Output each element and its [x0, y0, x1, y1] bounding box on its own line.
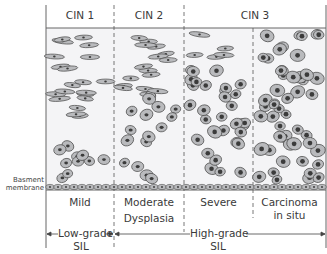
grade-moderate-line1: Moderate — [114, 196, 184, 209]
grade-severe-label: Severe — [184, 196, 253, 209]
high-grade-line2: SIL — [190, 240, 246, 253]
low-grade-line1: Low-grade — [58, 227, 104, 240]
basement-membrane-cells — [46, 184, 326, 189]
basement-label-line2: membrane — [0, 184, 44, 192]
grade-carcinoma-in-situ: Carcinoma in situ — [253, 196, 326, 222]
high-grade-line1: High-grade — [190, 227, 246, 240]
basement-label-line1: Basment — [0, 176, 44, 184]
low-grade-sil-label: Low-grade SIL — [58, 227, 104, 253]
header-cin2: CIN 2 — [114, 9, 184, 22]
grade-mild: Mild — [46, 196, 114, 209]
grade-mild-label: Mild — [46, 196, 114, 209]
grade-moderate-line2: Dysplasia — [114, 212, 184, 225]
basement-membrane-label: Basment membrane — [0, 176, 44, 192]
header-cin1: CIN 1 — [46, 9, 114, 22]
grade-cis-line2: in situ — [253, 209, 326, 222]
header-cin3: CIN 3 — [184, 9, 326, 22]
grade-moderate: Moderate Dysplasia — [114, 196, 184, 225]
grade-severe: Severe — [184, 196, 253, 209]
high-grade-sil-label: High-grade SIL — [190, 227, 246, 253]
grade-cis-line1: Carcinoma — [253, 196, 326, 209]
low-grade-line2: SIL — [58, 240, 104, 253]
